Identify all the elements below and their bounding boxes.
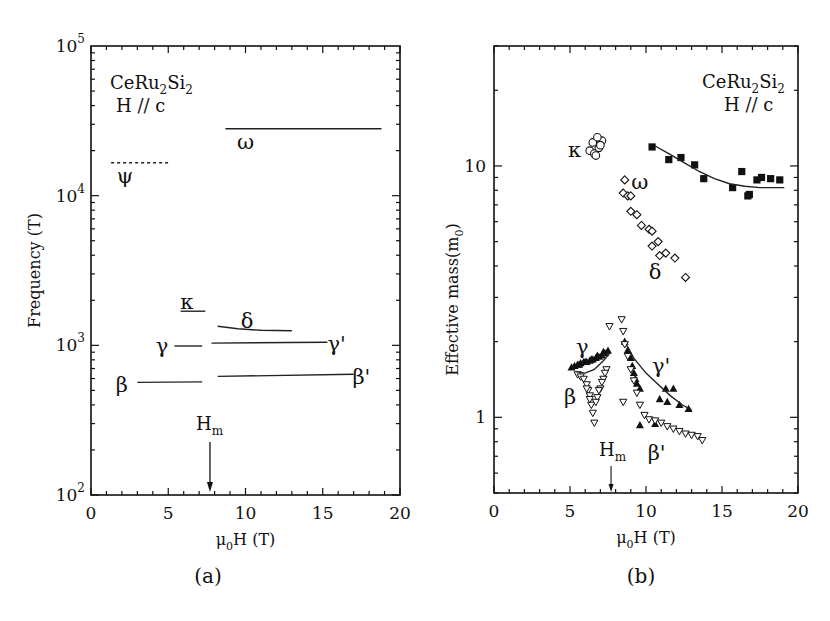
panel-label: (b) xyxy=(627,564,655,588)
series--: κ xyxy=(180,290,205,314)
series-label: κ xyxy=(180,290,193,314)
series--fit xyxy=(655,146,784,188)
series--: β' xyxy=(618,317,706,465)
series--: γ' xyxy=(212,332,346,356)
panel-a-frequency-plot: 05101520102103104105μ0H (T)Frequency (T)… xyxy=(25,32,411,588)
series--: δ xyxy=(619,176,689,284)
series-label: δ xyxy=(649,260,662,284)
x-tick-label: 15 xyxy=(711,501,733,521)
x-tick-label: 20 xyxy=(389,503,411,523)
series-label: γ' xyxy=(652,354,670,378)
y-tick-label: 102 xyxy=(56,481,85,505)
series-label: ψ xyxy=(117,164,133,188)
series--: β xyxy=(116,373,202,397)
figure-canvas: 05101520102103104105μ0H (T)Frequency (T)… xyxy=(0,0,830,621)
series--: γ xyxy=(568,335,612,370)
x-tick-label: 20 xyxy=(787,501,809,521)
x-tick-label: 0 xyxy=(489,501,500,521)
y-tick-label: 103 xyxy=(56,331,85,355)
hm-marker-label: Hm xyxy=(196,413,224,438)
x-axis-label: μ0H (T) xyxy=(216,530,276,553)
x-tick-label: 5 xyxy=(565,501,576,521)
field-direction-annotation: H // c xyxy=(724,94,773,115)
x-tick-label: 15 xyxy=(312,503,334,523)
y-axis-label: Frequency (T) xyxy=(25,213,44,328)
panel-b-effective-mass-plot: 05101520110μ0H (T)Effective mass(m0)(b)C… xyxy=(443,46,809,588)
series-label: β' xyxy=(352,365,370,389)
series-label: γ' xyxy=(327,332,345,356)
x-tick-label: 5 xyxy=(163,503,174,523)
y-axis-label: Effective mass(m0) xyxy=(443,223,466,375)
series--: β xyxy=(564,324,613,427)
series--: ψ xyxy=(111,163,168,188)
compound-annotation: CeRu2Si2 xyxy=(702,71,785,96)
series-label: β' xyxy=(648,441,666,465)
series-label: γ xyxy=(576,335,589,359)
series-label: ω xyxy=(237,130,254,154)
series-label: β xyxy=(564,385,576,409)
series-label: κ xyxy=(568,138,581,162)
x-tick-label: 10 xyxy=(235,503,257,523)
x-tick-label: 0 xyxy=(86,503,97,523)
series--: ω xyxy=(631,143,783,199)
y-tick-label: 1 xyxy=(475,407,486,427)
series--: β' xyxy=(218,365,371,389)
field-direction-annotation: H // c xyxy=(116,95,165,116)
compound-annotation: CeRu2Si2 xyxy=(110,72,193,97)
series--: ω xyxy=(225,129,381,154)
series-label: β xyxy=(116,373,128,397)
y-tick-label: 105 xyxy=(56,32,85,56)
series-label: γ xyxy=(156,334,169,358)
series--: κ xyxy=(568,133,606,161)
series--: γ xyxy=(156,334,202,358)
y-tick-label: 104 xyxy=(56,182,86,206)
x-axis-label: μ0H (T) xyxy=(616,528,676,551)
x-tick-label: 10 xyxy=(635,501,657,521)
panel-label: (a) xyxy=(194,564,222,588)
hm-marker-label: Hm xyxy=(599,439,627,464)
y-tick-label: 10 xyxy=(464,156,486,176)
series-label: δ xyxy=(241,309,254,333)
series--: δ xyxy=(218,309,292,333)
series-label: ω xyxy=(631,170,648,194)
